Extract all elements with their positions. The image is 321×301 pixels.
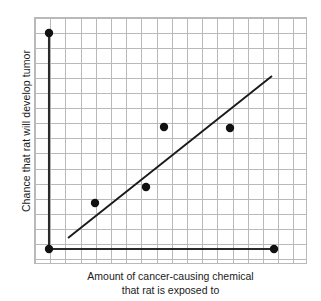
best-fit-line bbox=[68, 76, 272, 238]
data-point-top-left bbox=[45, 29, 53, 37]
scatter-plot-figure: Chance that rat will develop tumor Amoun… bbox=[0, 0, 321, 301]
data-point-mid-low bbox=[142, 183, 150, 191]
x-axis-label: Amount of cancer-causing chemical that r… bbox=[34, 269, 307, 297]
chart-overlay-svg bbox=[0, 0, 321, 301]
y-axis-label: Chance that rat will develop tumor bbox=[20, 21, 32, 241]
x-axis-label-line-2: that rat is exposed to bbox=[34, 283, 307, 297]
x-axis-label-line-1: Amount of cancer-causing chemical bbox=[34, 269, 307, 283]
data-point-bottom-right bbox=[270, 245, 278, 253]
data-point-bottom-left bbox=[45, 245, 53, 253]
data-point-mid-high bbox=[160, 123, 168, 131]
data-point-right-high bbox=[226, 124, 234, 132]
data-point-low-left bbox=[91, 199, 99, 207]
